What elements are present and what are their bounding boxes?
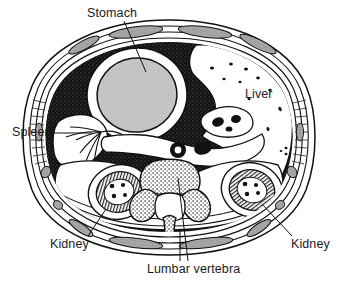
label-lumbar-vertebra: Lumbar vertebra xyxy=(147,262,240,276)
label-kidney-left: Kidney xyxy=(50,237,89,251)
label-liver: Liver xyxy=(245,87,273,101)
anatomy-figure: Stomach Spleen Liver Kidney Kidney Lumba… xyxy=(0,0,339,286)
label-kidney-right: Kidney xyxy=(291,237,330,251)
label-stomach: Stomach xyxy=(87,6,137,20)
label-spleen: Spleen xyxy=(12,125,52,139)
portal-vessel-cluster xyxy=(201,107,253,138)
